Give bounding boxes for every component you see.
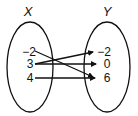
mapping-diagram: X Y −2 3 4 −2 0 6 bbox=[0, 0, 138, 116]
range-value: 6 bbox=[104, 71, 111, 85]
domain-value: 3 bbox=[27, 57, 34, 71]
domain-value: 4 bbox=[27, 71, 34, 85]
range-value: 0 bbox=[104, 57, 111, 71]
domain-label: X bbox=[23, 4, 34, 19]
mapping-arrows bbox=[35, 51, 96, 78]
range-label: Y bbox=[103, 4, 113, 19]
